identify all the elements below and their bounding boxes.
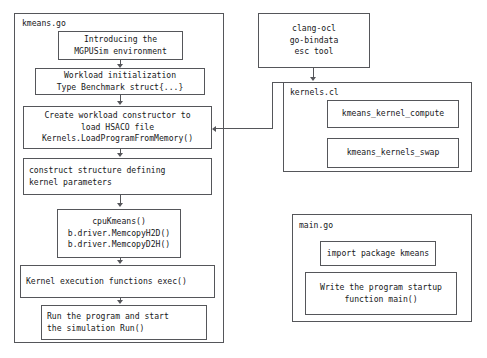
node-introducing-text: Introducing the MGPUSim environment — [58, 31, 183, 60]
node-construct-structure-line1: construct structure defining — [29, 165, 165, 176]
node-construct-structure-line2: kernel parameters — [29, 177, 112, 188]
node-toolchain-line2: go-bindata — [290, 35, 339, 46]
node-workload-init-line2: Type Benchmark struct{...} — [57, 82, 184, 93]
node-introducing-line1: Introducing the — [84, 34, 157, 45]
node-toolchain-line1: clang-ocl — [292, 23, 336, 34]
connector-kernels-to-constructor-left — [216, 128, 273, 129]
node-kernel-exec-line1: Kernel execution functions exec() — [26, 276, 187, 287]
node-write-main-line1: Write the program startup — [320, 282, 442, 293]
arrowhead-run-program — [117, 300, 123, 304]
node-kernel-exec-text: Kernel execution functions exec() — [26, 265, 212, 298]
node-write-main-line2: function main() — [344, 294, 417, 305]
node-import-package-text: import package kmeans — [320, 241, 436, 266]
node-toolchain-text: clang-ocl go-bindata esc tool — [258, 13, 370, 68]
arrowhead-kernels-cl — [310, 77, 316, 81]
node-kernel-compute-line1: kmeans_kernel_compute — [342, 108, 444, 119]
connector-kernels-to-constructor-down — [272, 82, 273, 129]
node-workload-init-line1: Workload initialization — [64, 70, 176, 81]
node-kernels-swap-text: kmeans_kernels_swap — [327, 138, 459, 168]
node-create-constructor-line3: Kernels.LoadProgramFromMemory() — [42, 133, 193, 144]
node-cpu-kmeans-line2: b.driver.MemcopyH2D() — [68, 228, 170, 239]
node-toolchain-line3: esc tool — [295, 46, 334, 57]
node-write-main-text: Write the program startup function main(… — [305, 272, 457, 315]
node-workload-init-text: Workload initialization Type Benchmark s… — [35, 68, 205, 95]
group-label-main-go: main.go — [299, 220, 333, 230]
arrowhead-create-constructor-feedback — [212, 126, 216, 132]
node-cpu-kmeans-line3: b.driver.MemcopyD2H() — [68, 239, 170, 250]
node-run-program-line1: Run the program and start — [47, 311, 169, 322]
group-label-kernels-cl: kernels.cl — [290, 87, 339, 97]
diagram-canvas: kmeans.go Introducing the MGPUSim enviro… — [0, 0, 487, 358]
node-kernel-compute-text: kmeans_kernel_compute — [327, 100, 459, 128]
node-create-constructor-line2: load HSACO file — [81, 122, 154, 133]
arrowhead-cpu-kmeans — [117, 203, 123, 207]
node-kernels-swap-line1: kmeans_kernels_swap — [347, 147, 440, 158]
node-cpu-kmeans-text: cpuKmeans() b.driver.MemcopyH2D() b.driv… — [57, 209, 181, 258]
arrowhead-create-constructor — [117, 101, 123, 105]
node-cpu-kmeans-line1: cpuKmeans() — [92, 216, 146, 227]
node-introducing-line2: MGPUSim environment — [74, 46, 167, 57]
group-label-kmeans-go: kmeans.go — [22, 18, 66, 28]
node-create-constructor-text: Create workload constructor to load HSAC… — [23, 106, 212, 149]
node-run-program-text: Run the program and start the simulation… — [47, 305, 205, 340]
node-construct-structure-text: construct structure defining kernel para… — [29, 158, 209, 195]
node-create-constructor-line1: Create workload constructor to — [44, 110, 190, 121]
arrowhead-kernel-exec — [117, 260, 123, 264]
connector-kernels-to-constructor-top — [272, 82, 284, 83]
node-import-package-line1: import package kmeans — [327, 248, 429, 259]
arrowhead-construct-structure — [117, 153, 123, 157]
node-run-program-line2: the simulation Run() — [47, 323, 144, 334]
